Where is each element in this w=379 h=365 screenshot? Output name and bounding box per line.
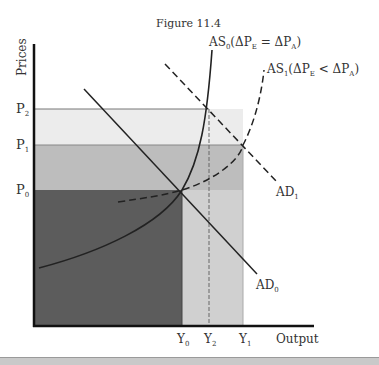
as0-label: AS0(ΔPE = ΔPA) — [208, 35, 301, 51]
region-p1 — [34, 145, 243, 190]
region-y-band — [182, 190, 243, 326]
ad1-label: AD1 — [275, 185, 299, 201]
as1-label: AS1(ΔPE < ΔPA) — [266, 62, 359, 78]
y-axis-label: Prices — [15, 38, 29, 76]
p1-label: P1 — [16, 137, 29, 154]
region-p2 — [34, 109, 243, 145]
p0-label: P0 — [16, 182, 29, 199]
y2-label: Y2 — [203, 332, 216, 348]
ad0-label: AD0 — [255, 278, 279, 294]
figure-title: Figure 11.4 — [156, 17, 221, 30]
page-bottom-band — [0, 357, 379, 365]
y1-label: Y1 — [238, 332, 251, 348]
y0-label: Y0 — [176, 332, 189, 348]
x-axis-label: Output — [276, 332, 319, 346]
region-p0 — [34, 190, 182, 326]
p2-label: P2 — [16, 101, 29, 118]
